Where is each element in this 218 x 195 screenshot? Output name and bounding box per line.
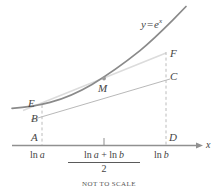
point-label-f: F — [170, 48, 177, 59]
exponential-curve-figure: y=ex A B E M C F D x ln a ln b ln a + ln… — [0, 0, 218, 195]
tick-ln-b-arg: b — [164, 149, 169, 160]
fraction-num-arg1: a — [94, 149, 99, 160]
chord-ef — [23, 53, 166, 111]
tick-label-ln-b: ln b — [154, 150, 169, 160]
tick-ln-a-arg: a — [40, 149, 45, 160]
point-label-b: B — [31, 113, 38, 124]
point-label-e: E — [28, 98, 35, 109]
x-axis-arrowhead — [196, 143, 203, 149]
fraction-numerator: ln a + ln b — [68, 150, 140, 162]
point-label-m: M — [98, 83, 107, 94]
tick-label-ln-a: ln a — [30, 150, 45, 160]
point-label-c: C — [170, 71, 177, 82]
fraction-denominator: 2 — [68, 163, 140, 175]
point-label-a: A — [31, 132, 38, 143]
point-marker-m — [102, 77, 106, 81]
fraction-num-op1: ln — [84, 149, 92, 160]
fraction-plus: + — [101, 149, 107, 160]
tick-label-midpoint-fraction: ln a + ln b 2 — [68, 150, 140, 174]
tick-ln-b-op: ln — [154, 149, 162, 160]
curve-equation-equals: = — [146, 18, 154, 30]
curve-equation-exponent: x — [159, 17, 162, 25]
curve-equation-label: y=ex — [141, 19, 162, 30]
figure-caption: NOT TO SCALE — [0, 180, 218, 188]
tick-ln-a-op: ln — [30, 149, 38, 160]
fraction-num-arg2: b — [119, 149, 124, 160]
x-axis-label: x — [206, 140, 210, 150]
fraction-num-op2: ln — [109, 149, 117, 160]
point-label-d: D — [169, 132, 177, 143]
